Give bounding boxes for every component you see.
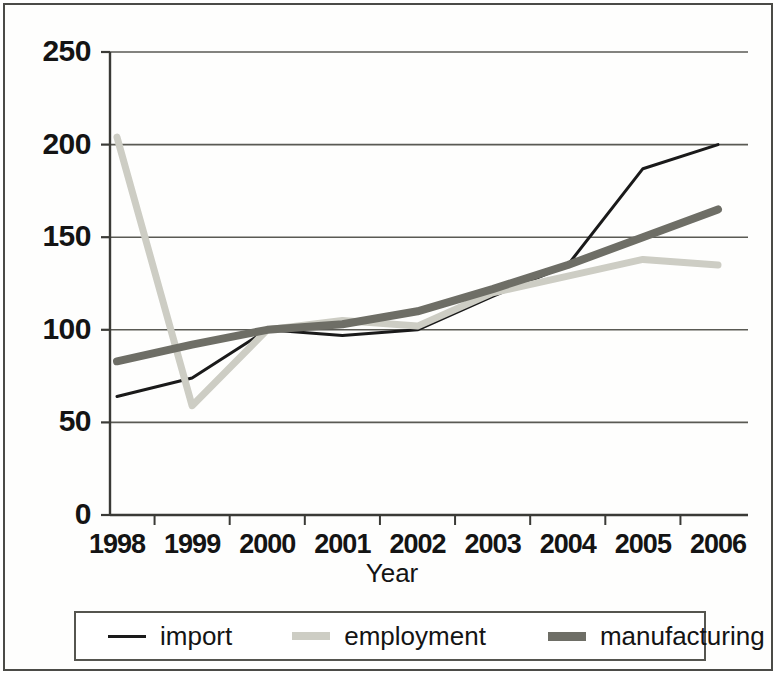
y-tick-label-200: 200 bbox=[13, 129, 91, 159]
x-tick-label-2000: 2000 bbox=[227, 531, 307, 558]
x-tick-label-2002: 2002 bbox=[378, 531, 458, 558]
y-tickmarks-group bbox=[101, 52, 110, 515]
legend-swatch-import-icon bbox=[108, 635, 146, 638]
legend-item-manufacturing[interactable]: manufacturing bbox=[548, 623, 765, 649]
series-line-manufacturing bbox=[117, 209, 718, 361]
y-tick-label-100: 100 bbox=[13, 314, 91, 344]
legend-label-import: import bbox=[160, 623, 232, 649]
y-tick-label-150: 150 bbox=[13, 221, 91, 251]
chart-screenshot: 250200150100500 199819992000200120022003… bbox=[0, 0, 784, 682]
data-series-group bbox=[117, 137, 718, 406]
series-line-import bbox=[117, 145, 718, 397]
legend-item-import[interactable]: import bbox=[108, 623, 232, 649]
legend-label-employment: employment bbox=[344, 623, 486, 649]
legend-swatch-manufacturing-icon bbox=[548, 632, 586, 641]
y-tick-label-50: 50 bbox=[13, 406, 91, 436]
x-tick-label-1999: 1999 bbox=[152, 531, 232, 558]
series-line-employment bbox=[117, 137, 718, 406]
legend-label-manufacturing: manufacturing bbox=[600, 623, 765, 649]
x-tick-label-2001: 2001 bbox=[302, 531, 382, 558]
legend-swatch-employment-icon bbox=[292, 632, 330, 640]
x-tick-label-1998: 1998 bbox=[77, 531, 157, 558]
x-tickmarks-group bbox=[155, 515, 681, 525]
x-tick-label-2005: 2005 bbox=[603, 531, 683, 558]
x-tick-label-2004: 2004 bbox=[528, 531, 608, 558]
x-tick-label-2003: 2003 bbox=[453, 531, 533, 558]
chart-legend: importemploymentmanufacturing bbox=[74, 611, 706, 661]
legend-item-employment[interactable]: employment bbox=[292, 623, 486, 649]
line-chart-figure: 250200150100500 199819992000200120022003… bbox=[0, 0, 784, 682]
x-axis-title: Year bbox=[0, 560, 784, 586]
x-tick-label-2006: 2006 bbox=[678, 531, 758, 558]
y-tick-label-0: 0 bbox=[13, 499, 91, 529]
gridlines-group bbox=[110, 52, 748, 515]
y-tick-label-250: 250 bbox=[13, 36, 91, 66]
axes-group bbox=[110, 52, 748, 515]
